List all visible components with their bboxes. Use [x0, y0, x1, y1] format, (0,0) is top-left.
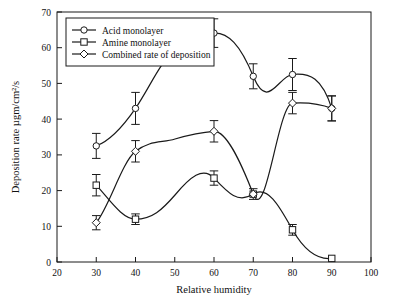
x-axis-title: Relative humidity [176, 284, 252, 295]
legend-label: Amine monolayer [102, 38, 172, 48]
y-tick-label: 60 [42, 43, 52, 53]
legend-label: Combined rate of deposition [102, 50, 211, 60]
y-axis-title: Deposition rate µgm/cm²/s [10, 81, 21, 193]
y-tick-label: 50 [42, 79, 52, 89]
y-tick-label: 0 [46, 258, 51, 268]
x-tick-label: 20 [52, 268, 62, 278]
x-tick-label: 100 [364, 268, 379, 278]
x-tick-label: 80 [288, 268, 298, 278]
x-tick-label: 40 [131, 268, 141, 278]
x-tick-label: 60 [209, 268, 219, 278]
y-tick-label: 30 [42, 150, 52, 160]
y-tick-label: 20 [42, 186, 52, 196]
chart-figure: 20 30 40 50 60 70 80 90 100 0 10 20 30 4… [0, 0, 396, 308]
circle-marker-icon [81, 27, 87, 33]
x-tick-label: 90 [327, 268, 337, 278]
x-tick-label: 70 [249, 268, 259, 278]
y-tick-label: 10 [42, 222, 52, 232]
chart-legend: Acid monolayer Amine monolayer Combined … [66, 18, 214, 66]
y-tick-label: 40 [42, 115, 52, 125]
x-tick-label: 30 [92, 268, 102, 278]
deposition-rate-line-chart: 20 30 40 50 60 70 80 90 100 0 10 20 30 4… [0, 0, 396, 308]
y-tick-label: 70 [42, 8, 52, 18]
square-marker-icon [81, 39, 87, 45]
legend-label: Acid monolayer [102, 26, 164, 36]
x-tick-label: 50 [170, 268, 180, 278]
